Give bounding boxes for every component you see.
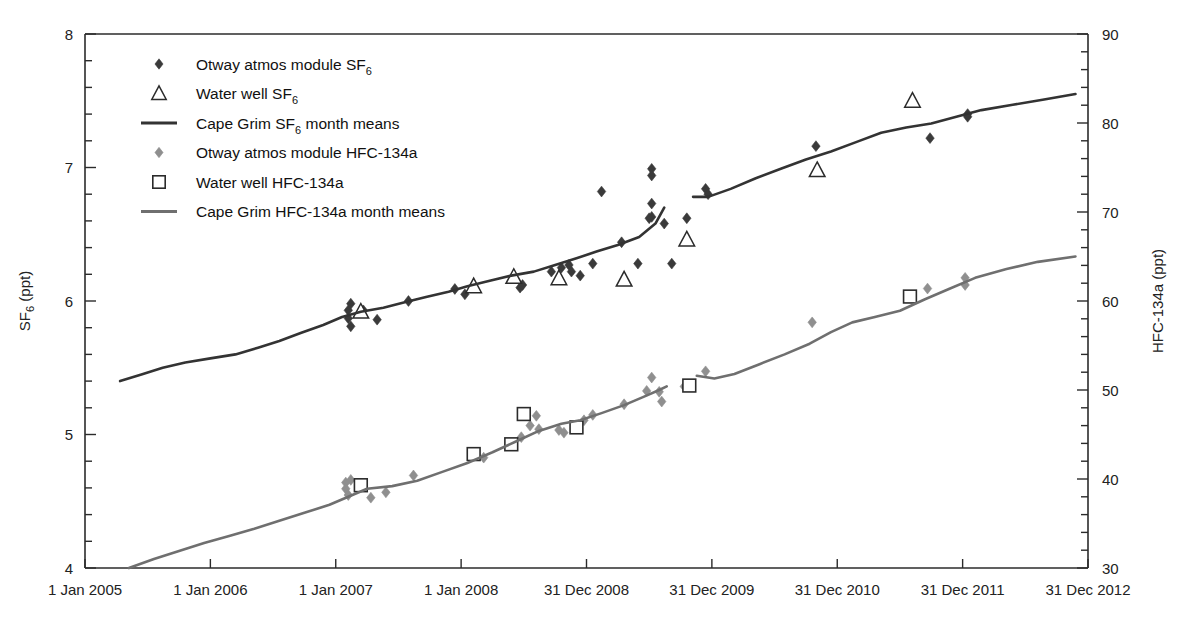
y-axis-left-tick-label: 7 (65, 159, 73, 176)
chart-container: 45678304050607080901 Jan 20051 Jan 20061… (0, 0, 1190, 634)
y-axis-right-tick-label: 60 (1102, 293, 1119, 310)
legend-label: Water well HFC-134a (196, 174, 344, 191)
y-axis-right-tick-label: 30 (1102, 560, 1119, 577)
x-axis-tick-label: 31 Dec 2012 (1045, 581, 1130, 598)
data-point-square (683, 379, 696, 392)
y-axis-left-tick-label: 6 (65, 293, 73, 310)
x-axis-tick-label: 31 Dec 2008 (544, 581, 629, 598)
y-axis-right-tick-label: 50 (1102, 382, 1119, 399)
x-axis-tick-label: 31 Dec 2010 (795, 581, 880, 598)
y-axis-left-tick-label: 5 (65, 426, 73, 443)
y-axis-right-title: HFC-134a (ppt) (1149, 249, 1166, 353)
y-axis-right-tick-label: 80 (1102, 115, 1119, 132)
y-axis-right-tick-label: 90 (1102, 26, 1119, 43)
y-axis-right-tick-label: 70 (1102, 204, 1119, 221)
y-axis-left-tick-label: 8 (65, 26, 73, 43)
sf6-hfc134a-timeseries-chart: 45678304050607080901 Jan 20051 Jan 20061… (0, 0, 1190, 634)
x-axis-tick-label: 31 Dec 2009 (669, 581, 754, 598)
x-axis-tick-label: 1 Jan 2007 (299, 581, 373, 598)
legend-square-swatch (153, 176, 165, 188)
y-axis-right-tick-label: 40 (1102, 471, 1119, 488)
x-axis-tick-label: 1 Jan 2005 (48, 581, 122, 598)
x-axis-tick-label: 1 Jan 2008 (424, 581, 498, 598)
x-axis-tick-label: 31 Dec 2011 (921, 581, 1005, 598)
data-point-square (517, 408, 530, 421)
legend-label: Cape Grim HFC-134a month means (196, 203, 445, 220)
x-axis-tick-label: 1 Jan 2006 (173, 581, 247, 598)
y-axis-left-tick-label: 4 (65, 560, 73, 577)
legend-label: Otway atmos module HFC-134a (196, 144, 418, 161)
data-point-square (904, 290, 917, 303)
chart-background (0, 0, 1190, 634)
